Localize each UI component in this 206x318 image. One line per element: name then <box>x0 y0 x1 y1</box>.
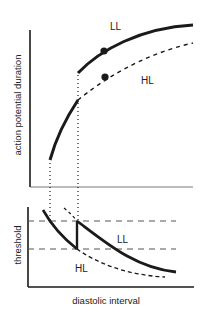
threshold-curve-ll <box>77 221 176 272</box>
apd-curve-hl <box>78 43 193 100</box>
apd-curve-short-di <box>50 100 78 160</box>
lower-y-axis-label: threshold <box>12 225 23 264</box>
threshold-curve-short-di <box>43 210 77 249</box>
apd-curve-ll <box>78 25 193 73</box>
upper-y-axis-label: action potential duration <box>12 55 23 156</box>
restitution-diagram: LL HL action potential duration LL HL th… <box>0 0 206 318</box>
upper-ll-label: LL <box>110 21 122 32</box>
threshold-curve-hl-upper <box>64 208 77 221</box>
lower-hl-label: HL <box>75 263 88 274</box>
lower-x-axis-label: diastolic interval <box>72 295 140 306</box>
ll-marker-dot <box>100 47 107 54</box>
hl-marker-dot <box>101 73 108 80</box>
upper-hl-label: HL <box>141 75 154 86</box>
lower-ll-label: LL <box>117 234 129 245</box>
